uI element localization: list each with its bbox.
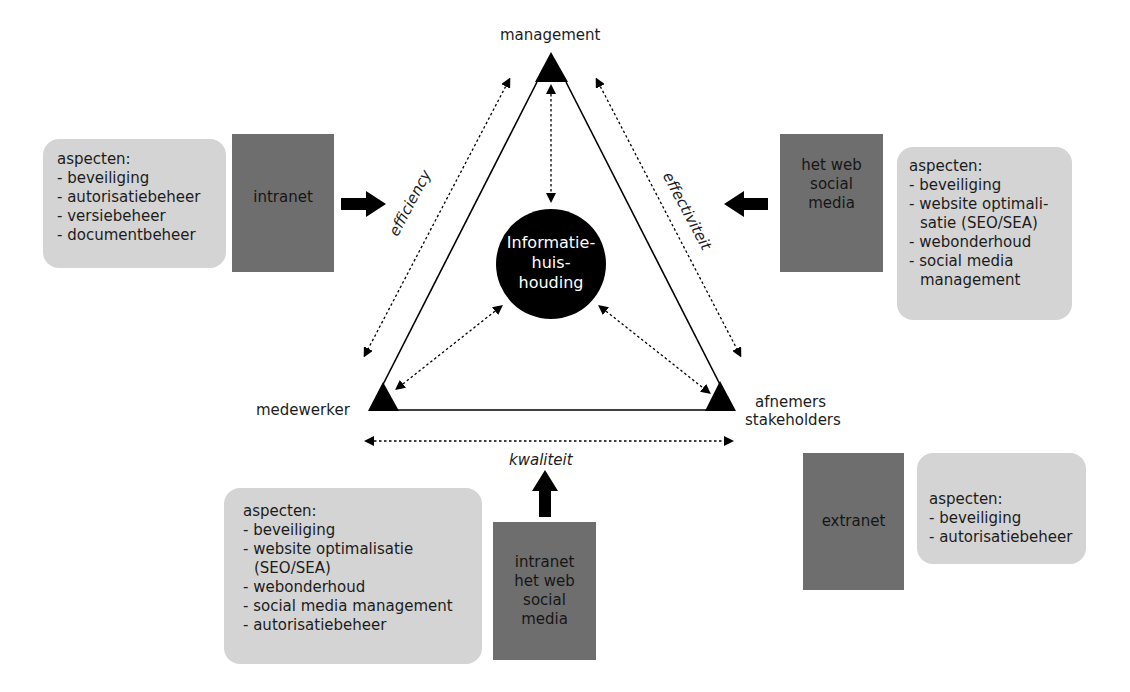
channel-label: intranet [253,188,313,207]
aspect-item: - autorisatiebeheer [57,188,226,207]
aspects-box-intranet: aspecten: - beveiliging - autorisatiebeh… [43,139,226,268]
aspects-title: aspecten: [243,502,482,521]
medewerker-center-arrow [399,308,499,387]
aspects-title: aspecten: [929,490,1086,509]
center-line: houding [496,273,606,293]
channel-box-intranet: intranet [232,134,334,272]
channel-box-extranet: extranet [803,453,904,590]
afnemers-center-arrow [602,308,707,391]
center-label: Informatie- huis- houding [496,233,606,293]
center-line: huis- [496,253,606,273]
aspect-item: (SEO/SEA) [243,559,482,578]
aspects-title: aspecten: [909,157,1072,176]
channel-box-combined: intranet het web social media [493,522,596,660]
aspect-item: - versiebeheer [57,207,226,226]
efficiency-arrow [366,82,508,353]
vertex-marker-bottom-right [705,381,736,411]
node-medewerker-label: medewerker [256,401,350,419]
aspect-item: - social media [909,252,1072,271]
channel-label: het web [514,572,574,591]
node-afnemers-label: afnemers [755,393,826,411]
effectiviteit-arrow [598,82,739,353]
aspects-box-web-social: aspecten: - beveiliging - website optima… [897,147,1072,320]
channel-box-web-social: het web social media [780,134,883,272]
channel-label: media [808,194,855,213]
aspect-item: - beveiliging [57,169,226,188]
aspect-item: - webonderhoud [909,233,1072,252]
vertex-marker-top [535,52,568,82]
aspect-item: - website optimalisatie [243,540,482,559]
channel-label: social [523,591,566,610]
arrow-up-icon [532,470,558,517]
node-management-label: management [500,26,600,44]
aspect-item: - autorisatiebeheer [929,528,1086,547]
arrow-left-icon [724,191,768,217]
aspect-item: - website optimali- [909,195,1072,214]
aspect-item: management [909,271,1072,290]
aspect-item: - social media management [243,597,482,616]
aspect-item: - documentbeheer [57,226,226,245]
channel-label: social [810,175,853,194]
aspect-item: - beveiliging [243,521,482,540]
vertex-marker-bottom-left [368,382,399,411]
aspect-item: - autorisatiebeheer [243,616,482,635]
diagram-canvas: management medewerker afnemers stakehold… [0,0,1130,692]
node-stakeholders-label: stakeholders [745,411,841,429]
center-line: Informatie- [496,233,606,253]
aspect-item: - beveiliging [929,509,1086,528]
aspect-item: - beveiliging [909,176,1072,195]
channel-label: intranet [515,553,575,572]
channel-label: media [521,610,568,629]
aspects-box-extranet: aspecten: - beveiliging - autorisatiebeh… [917,453,1086,564]
aspects-title: aspecten: [57,150,226,169]
aspect-item: - webonderhoud [243,578,482,597]
edge-kwaliteit-label: kwaliteit [509,451,573,469]
channel-label: extranet [822,512,886,531]
arrow-right-icon [341,191,386,217]
aspects-box-combined: aspecten: - beveiliging - website optima… [224,488,482,664]
channel-label: het web [801,156,861,175]
aspect-item: satie (SEO/SEA) [909,214,1072,233]
